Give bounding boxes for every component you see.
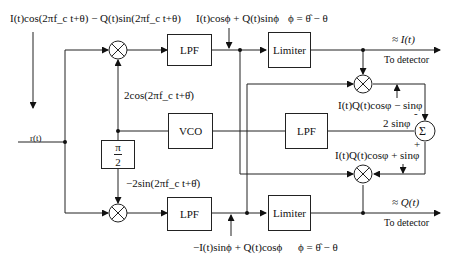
upper-product-label: I(t)Q(t)cosφ − sinφ (338, 100, 422, 111)
junction-dot (361, 211, 365, 215)
junction-dot (63, 140, 67, 144)
limiter-top-label: Limiter (273, 44, 306, 56)
vco-label: VCO (179, 125, 202, 137)
lpf-top-label: LPF (180, 44, 199, 56)
multiplier-bottom (109, 204, 127, 222)
junction-dot (245, 211, 249, 215)
bottom-output-dest: To detector (384, 218, 429, 228)
bottom-output-label: ≈ Q(t) (392, 197, 419, 208)
junction-dot (238, 48, 242, 52)
phase-shift-denominator: 2 (115, 156, 121, 168)
limiter-top-block: Limiter (268, 32, 311, 68)
phase-shift-block: π 2 (101, 140, 135, 169)
lower-product-label: I(t)Q(t)cosφ + sinφ (335, 150, 419, 161)
lpf-loop-label: LPF (297, 125, 316, 137)
fraction-bar (114, 154, 122, 155)
top-phi-definition: ϕ = θ̂ − θ (288, 13, 328, 24)
lpf-bottom-label: LPF (180, 208, 199, 220)
vco-block: VCO (168, 113, 213, 149)
top-output-dest: To detector (384, 55, 429, 65)
summer-sigma: Σ (419, 125, 426, 137)
sum-output-label: 2 sinφ (383, 118, 410, 129)
top-lpf-output-label: I(t)cosϕ + Q(t)sinϕ (196, 13, 279, 24)
limiter-bottom-block: Limiter (268, 195, 311, 231)
lpf-loop-block: LPF (285, 113, 328, 149)
multiplier-top (109, 41, 127, 59)
summer-minus-sign: - (414, 108, 418, 119)
limiter-bottom-label: Limiter (273, 207, 306, 219)
phase-shift-numerator: π (115, 141, 121, 153)
junction-dot (116, 129, 120, 133)
multiplier-upper-product (354, 75, 372, 93)
top-output-label: ≈ I(t) (392, 34, 415, 45)
bottom-lpf-output-label: −I(t)sinϕ + Q(t)cosϕ (193, 242, 282, 253)
lpf-top-block: LPF (167, 34, 212, 66)
rt-label: r(t) (30, 134, 42, 143)
vco-sin-label: −2sin(2πf_c t+θ̂) (126, 178, 200, 189)
multiplier-lower-product (354, 165, 372, 183)
bottom-phi-definition: ϕ = θ̂ − θ (298, 242, 338, 253)
vco-cos-label: 2cos(2πf_c t+θ̂) (124, 90, 194, 101)
junction-dot (361, 48, 365, 52)
summer-plus-sign: + (414, 139, 420, 150)
lpf-bottom-block: LPF (167, 197, 212, 231)
input-signal-label: I(t)cos(2πf_c t+θ) − Q(t)sin(2πf_c t+θ) (10, 13, 181, 24)
